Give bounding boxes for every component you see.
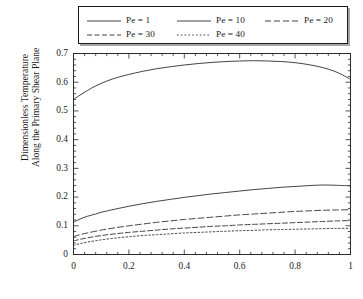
legend-label: Pe = 20 bbox=[304, 16, 333, 25]
figure-container: Dimensionless Temperature Along the Prim… bbox=[0, 0, 363, 299]
series-line-pe-20 bbox=[74, 210, 351, 237]
legend-line-sample bbox=[265, 17, 299, 25]
legend-entry-pe-10[interactable]: Pe = 10 bbox=[177, 15, 245, 27]
legend-line-sample bbox=[177, 17, 211, 25]
legend-entry-pe-20[interactable]: Pe = 20 bbox=[265, 15, 333, 27]
legend-line-sample bbox=[177, 31, 211, 39]
legend-line-sample bbox=[87, 31, 121, 39]
legend-entry-pe-30[interactable]: Pe = 30 bbox=[87, 29, 155, 41]
legend-entry-pe-40[interactable]: Pe = 40 bbox=[177, 29, 245, 41]
legend-label: Pe = 30 bbox=[126, 30, 155, 39]
legend-entry-pe-1[interactable]: Pe = 1 bbox=[87, 15, 150, 27]
series-line-pe-40 bbox=[74, 228, 351, 245]
legend-label: Pe = 1 bbox=[126, 16, 150, 25]
series-line-pe-1 bbox=[74, 61, 351, 100]
legend-label: Pe = 10 bbox=[216, 16, 245, 25]
legend: Pe = 1Pe = 10Pe = 20Pe = 30Pe = 40 bbox=[78, 6, 348, 44]
legend-label: Pe = 40 bbox=[216, 30, 245, 39]
plot-frame bbox=[74, 54, 351, 255]
plot-area bbox=[0, 0, 363, 299]
legend-line-sample bbox=[87, 17, 121, 25]
